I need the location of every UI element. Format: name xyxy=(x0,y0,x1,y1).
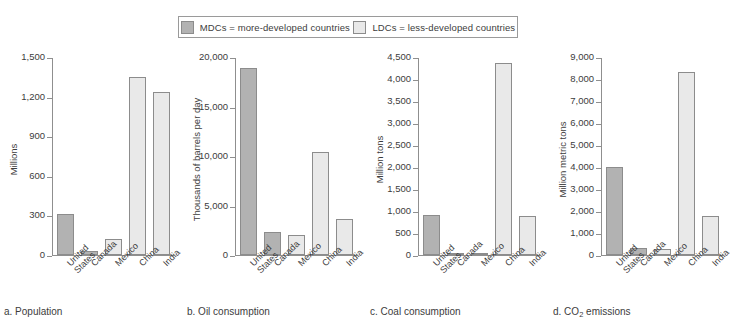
y-tick-mark xyxy=(413,212,418,213)
y-tick-mark xyxy=(596,124,601,125)
panel-caption: a. Population xyxy=(4,306,62,317)
y-tick-label: 1,500 xyxy=(387,183,411,194)
bar-group xyxy=(419,58,540,255)
y-tick-mark xyxy=(413,146,418,147)
y-tick-label: 2,000 xyxy=(570,205,594,216)
y-tick-mark xyxy=(596,168,601,169)
chart-panel-c: Million tons05001,0001,5002,0002,5003,00… xyxy=(366,50,549,332)
y-tick-label: 900 xyxy=(29,130,45,141)
y-tick-mark xyxy=(413,168,418,169)
y-tick-label: 2,500 xyxy=(387,139,411,150)
y-tick-label: 3,500 xyxy=(387,95,411,106)
bar[interactable] xyxy=(153,92,170,255)
bar[interactable] xyxy=(495,63,512,255)
y-tick-label: 5,000 xyxy=(570,139,594,150)
bar[interactable] xyxy=(129,77,146,255)
bar[interactable] xyxy=(606,167,623,255)
y-tick-label: 3,000 xyxy=(570,183,594,194)
bar-group xyxy=(236,58,357,255)
x-axis-labels: United StatesCanadaMexicoChinaIndia xyxy=(53,258,174,318)
y-tick-mark xyxy=(596,58,601,59)
bar[interactable] xyxy=(57,214,74,255)
y-axis-label: Millions xyxy=(8,57,21,262)
y-tick-label: 7,000 xyxy=(570,95,594,106)
y-tick-mark xyxy=(47,137,52,138)
y-tick-mark xyxy=(230,256,235,257)
y-tick-label: 0 xyxy=(589,249,594,260)
y-tick-mark xyxy=(413,190,418,191)
legend-swatch-ldc-icon xyxy=(353,21,366,34)
y-tick-label: 1,000 xyxy=(570,227,594,238)
legend-label-mdc: MDCs = more-developed countries xyxy=(200,22,350,33)
x-tick-label: Mexico xyxy=(654,258,671,318)
panel-caption: b. Oil consumption xyxy=(187,306,270,317)
y-tick-label: 4,500 xyxy=(387,51,411,62)
y-tick-label: 3,000 xyxy=(387,117,411,128)
y-tick-mark xyxy=(47,98,52,99)
y-tick-mark xyxy=(596,102,601,103)
y-tick-label: 10,000 xyxy=(199,150,228,161)
plot-area: 05,00010,00015,00020,000 xyxy=(235,58,357,256)
y-tick-label: 0 xyxy=(406,249,411,260)
y-tick-label: 5,000 xyxy=(204,200,228,211)
y-tick-mark xyxy=(230,157,235,158)
y-tick-label: 300 xyxy=(29,209,45,220)
bar-group xyxy=(53,58,174,255)
legend-label-ldc: LDCs = less-developed countries xyxy=(372,22,515,33)
x-tick-label: China xyxy=(129,258,146,318)
y-tick-mark xyxy=(413,58,418,59)
y-axis-label: Million tons xyxy=(374,57,387,262)
y-tick-mark xyxy=(413,80,418,81)
y-tick-mark xyxy=(596,256,601,257)
y-tick-label: 4,000 xyxy=(387,73,411,84)
y-tick-mark xyxy=(596,234,601,235)
y-tick-mark xyxy=(47,216,52,217)
legend-entry-mdc: MDCs = more-developed countries xyxy=(181,21,350,34)
y-tick-label: 1,500 xyxy=(21,51,45,62)
y-tick-mark xyxy=(413,256,418,257)
y-tick-label: 600 xyxy=(29,170,45,181)
y-tick-mark xyxy=(47,177,52,178)
y-axis-label: Million metric tons xyxy=(557,57,570,262)
y-tick-label: 15,000 xyxy=(199,101,228,112)
bar[interactable] xyxy=(240,68,257,255)
y-tick-label: 8,000 xyxy=(570,73,594,84)
x-tick-label: China xyxy=(678,258,695,318)
x-tick-label: China xyxy=(312,258,329,318)
plot-area: 03006009001,2001,500 xyxy=(52,58,174,256)
y-tick-mark xyxy=(47,256,52,257)
bar[interactable] xyxy=(678,72,695,255)
panel-caption: c. Coal consumption xyxy=(370,306,461,317)
y-tick-mark xyxy=(230,108,235,109)
x-tick-label: India xyxy=(153,258,170,318)
y-tick-mark xyxy=(596,212,601,213)
y-tick-mark xyxy=(230,58,235,59)
y-tick-mark xyxy=(413,234,418,235)
y-tick-label: 0 xyxy=(40,249,45,260)
chart-panel-d: Million metric tons01,0002,0003,0004,000… xyxy=(549,50,732,332)
y-tick-label: 0 xyxy=(223,249,228,260)
chart-panel-b: Thousands of barrels per day05,00010,000… xyxy=(183,50,366,332)
x-tick-label: China xyxy=(495,258,512,318)
y-tick-label: 1,200 xyxy=(21,91,45,102)
bar-group xyxy=(602,58,723,255)
x-tick-label: Mexico xyxy=(471,258,488,318)
y-tick-label: 4,000 xyxy=(570,161,594,172)
chart-panels: Millions03006009001,2001,500United State… xyxy=(0,50,733,332)
bar[interactable] xyxy=(423,215,440,255)
x-tick-label: Canada xyxy=(630,258,647,318)
y-tick-label: 9,000 xyxy=(570,51,594,62)
y-tick-label: 1,000 xyxy=(387,205,411,216)
y-tick-mark xyxy=(596,80,601,81)
y-tick-label: 2,000 xyxy=(387,161,411,172)
panel-caption: d. CO2 emissions xyxy=(553,306,631,317)
y-tick-label: 6,000 xyxy=(570,117,594,128)
legend-entry-ldc: LDCs = less-developed countries xyxy=(353,21,515,34)
bar[interactable] xyxy=(312,152,329,255)
y-tick-mark xyxy=(413,124,418,125)
x-tick-label: Mexico xyxy=(105,258,122,318)
y-tick-mark xyxy=(413,102,418,103)
y-tick-mark xyxy=(47,58,52,59)
y-tick-label: 500 xyxy=(395,227,411,238)
x-tick-label: Mexico xyxy=(288,258,305,318)
